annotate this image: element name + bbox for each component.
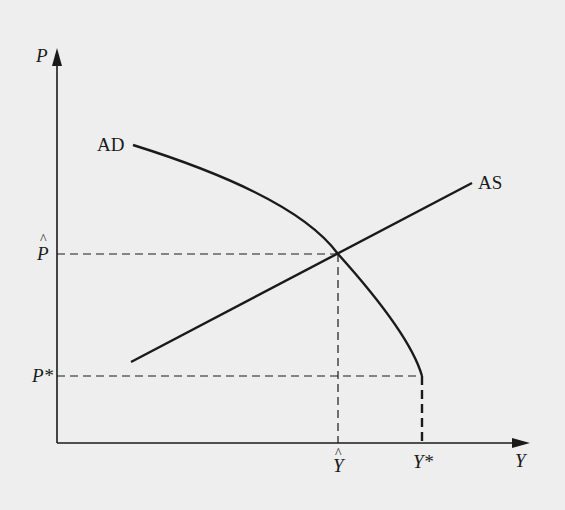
ad-label: AD [97,134,124,155]
as-label: AS [478,172,502,193]
ad-curve [133,145,422,376]
ad-as-diagram: P Y AD AS P ^ P* Y ^ Y* [0,0,565,510]
axes [52,48,530,448]
x-axis-arrow-icon [512,438,530,448]
x-axis-label: Y [515,450,528,471]
p-hat-accent: ^ [40,232,47,247]
y-axis-label: P [35,45,48,66]
p-star-label: P* [31,365,54,386]
y-hat-accent: ^ [335,446,342,461]
as-curve [131,183,472,362]
y-star-label: Y* [413,451,434,472]
y-axis-arrow-icon [52,48,62,66]
guide-lines [57,254,422,443]
